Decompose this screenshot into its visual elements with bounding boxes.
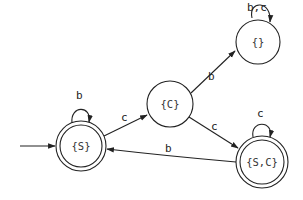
transition-S-S: b: [72, 89, 89, 123]
transition-SC-SC: c: [253, 107, 271, 137]
transition-label: b: [208, 70, 215, 83]
transition-S-C: c: [104, 111, 147, 136]
transition-label: b: [165, 142, 172, 155]
transition-E-E: b,c: [247, 1, 270, 22]
state-label: {}: [252, 36, 265, 48]
transition-SC-S: b: [107, 142, 236, 162]
state-label: {C}: [161, 98, 180, 110]
state-SC: {S,C}: [236, 136, 288, 188]
state-label: {S,C}: [246, 156, 278, 168]
state-diagram: b c b c b,c c b {S} {C}: [0, 0, 303, 200]
transition-label: b,c: [247, 1, 267, 14]
state-empty: {}: [236, 20, 280, 64]
transition-C-E: b: [191, 51, 235, 93]
state-S: {S}: [56, 121, 106, 171]
state-C: {C}: [147, 81, 193, 127]
transition-label: c: [211, 120, 218, 133]
transition-label: c: [257, 107, 264, 120]
transition-C-SC: c: [189, 117, 238, 148]
state-label: {S}: [72, 140, 91, 152]
transition-label: b: [76, 89, 83, 102]
transition-label: c: [121, 111, 128, 124]
